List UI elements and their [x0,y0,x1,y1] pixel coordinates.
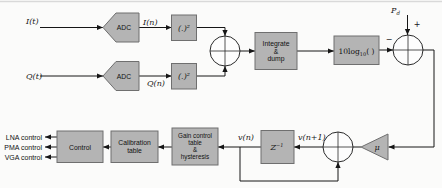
q-sampled-label: Q(n) [147,79,165,88]
svg-text:dump: dump [267,55,284,63]
adc-top-label: ADC [117,24,131,31]
pd-label: Pd [390,6,400,16]
v-next-label: v(n+1) [298,133,326,142]
svg-text:hysteresis: hysteresis [181,153,209,161]
svg-text:&: & [274,48,279,55]
square-top-label: (.)² [178,24,190,33]
adc-bottom-label: ADC [117,73,131,80]
q-input-label: Q(t) [26,72,42,81]
svg-text:table: table [127,147,142,154]
log-label: 10log10( ) [339,47,375,57]
power-control-block-diagram: ADC ADC (.)² (.)² Integrate & dump 10log… [0,0,442,188]
svg-text:table: table [188,139,202,146]
square-bottom-label: (.)² [178,72,190,81]
plus-sign-label: + [414,20,421,29]
sum-junction-1 [210,36,240,66]
v-current-label: v(n) [238,133,254,142]
sum-junction-2 [393,35,423,65]
lna-control-label: LNA control [6,134,43,141]
vga-control-label: VGA control [5,154,43,161]
sum-junction-3 [323,132,353,162]
i-sampled-label: I(n) [142,18,158,27]
i-input-label: I(t) [25,17,39,26]
mu-label: μ [374,143,379,152]
minus-sign-label: − [386,35,393,44]
control-label: Control [69,144,91,151]
pma-control-label: PMA control [4,144,42,151]
wire-i-to-sum1 [197,28,226,37]
svg-text:Calibration: Calibration [118,139,151,146]
wire-q-to-sum1 [197,66,226,76]
svg-text:Gain control: Gain control [178,132,212,139]
diagram-canvas: ADC ADC (.)² (.)² Integrate & dump 10log… [0,0,442,188]
